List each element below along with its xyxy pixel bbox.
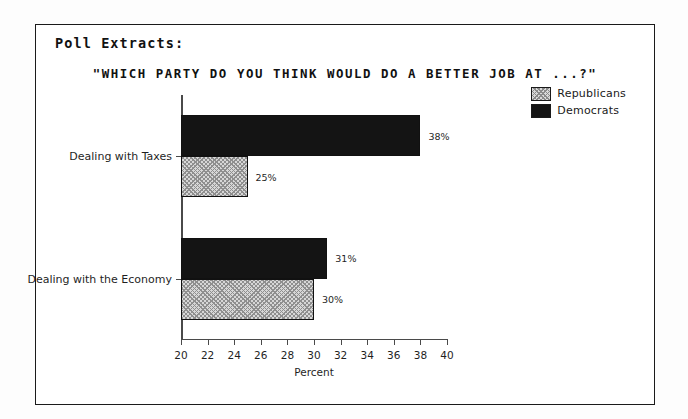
x-tick-mark: [181, 340, 182, 345]
x-tick-label: 22: [201, 349, 214, 361]
plot-area: 2022242628303234363840 Dealing with Taxe…: [181, 95, 447, 340]
x-tick-label: 32: [334, 349, 347, 361]
page-title: Poll Extracts:: [55, 35, 184, 51]
x-tick-mark: [208, 340, 209, 345]
chart-title: "WHICH PARTY DO YOU THINK WOULD DO A BET…: [36, 66, 654, 81]
x-tick-mark: [287, 340, 288, 345]
x-tick-label: 40: [440, 349, 453, 361]
chart-legend: Republicans Democrats: [531, 86, 626, 118]
x-tick-label: 38: [414, 349, 427, 361]
legend-swatch-democrats: [531, 104, 551, 118]
x-tick-label: 26: [254, 349, 267, 361]
poll-extract-figure: Poll Extracts: "WHICH PARTY DO YOU THINK…: [35, 24, 655, 405]
bar-value-label: 25%: [256, 171, 277, 182]
legend-swatch-republicans: [531, 87, 551, 101]
x-tick-mark: [234, 340, 235, 345]
x-tick-mark: [394, 340, 395, 345]
x-tick-mark: [447, 340, 448, 345]
x-tick-mark: [314, 340, 315, 345]
legend-item-democrats: Democrats: [531, 103, 626, 118]
legend-label-republicans: Republicans: [557, 87, 626, 100]
x-tick-label: 20: [174, 349, 187, 361]
category-label: Dealing with the Economy: [27, 272, 172, 285]
bar-democrats: [181, 238, 327, 279]
x-tick-mark: [261, 340, 262, 345]
x-tick-label: 30: [307, 349, 320, 361]
category-label: Dealing with Taxes: [69, 150, 172, 163]
bar-republicans: [181, 279, 314, 320]
x-tick-label: 36: [387, 349, 400, 361]
x-tick-mark: [367, 340, 368, 345]
bar-value-label: 30%: [322, 294, 343, 305]
x-axis-title: Percent: [181, 366, 447, 378]
x-tick-label: 28: [281, 349, 294, 361]
bar-democrats: [181, 115, 420, 156]
x-tick-mark: [341, 340, 342, 345]
bar-value-label: 38%: [428, 130, 449, 141]
x-tick-mark: [420, 340, 421, 345]
bar-value-label: 31%: [335, 253, 356, 264]
bar-republicans: [181, 156, 248, 197]
legend-item-republicans: Republicans: [531, 86, 626, 101]
x-tick-label: 24: [228, 349, 241, 361]
x-tick-label: 34: [361, 349, 374, 361]
legend-label-democrats: Democrats: [557, 104, 619, 117]
